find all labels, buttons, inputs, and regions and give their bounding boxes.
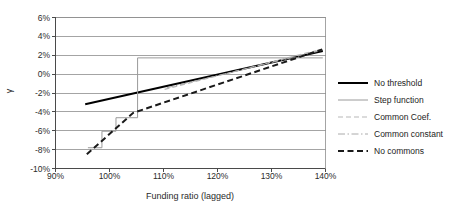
legend-swatch-icon <box>338 94 368 106</box>
x-axis-title: Funding ratio (lagged) <box>55 191 325 201</box>
y-tick-label: 2% <box>14 51 50 60</box>
legend-swatch-icon <box>338 77 368 89</box>
y-axis-title: γ <box>4 76 14 106</box>
y-tick-label: -6% <box>14 127 50 136</box>
chart-figure: 6%4%2%0%-2%-4%-6%-8%-10% 90%100%110%120%… <box>0 0 456 221</box>
legend-label: Step function <box>374 95 424 105</box>
y-axis-tick-labels: 6%4%2%0%-2%-4%-6%-8%-10% <box>14 0 50 221</box>
y-tick-label: 6% <box>14 13 50 22</box>
legend-item: Step function <box>338 91 456 108</box>
legend-label: Common Coef. <box>374 112 431 122</box>
x-axis-tick-labels: 90%100%110%120%130%140% <box>0 172 456 186</box>
legend-label: No commons <box>374 146 424 156</box>
x-tick-label: 130% <box>261 172 283 181</box>
legend-label: Common constant <box>374 129 443 139</box>
x-tick-label: 120% <box>207 172 229 181</box>
legend-item: Common Coef. <box>338 108 456 125</box>
legend-swatch-icon <box>338 111 368 123</box>
y-tick-label: -2% <box>14 89 50 98</box>
y-tick-label: 0% <box>14 70 50 79</box>
chart-legend: No thresholdStep functionCommon Coef.Com… <box>338 74 456 159</box>
legend-swatch-icon <box>338 145 368 157</box>
legend-label: No threshold <box>374 78 422 88</box>
legend-item: No commons <box>338 142 456 159</box>
x-tick-label: 140% <box>315 172 337 181</box>
x-tick-label: 100% <box>99 172 121 181</box>
series-line-4 <box>87 49 322 154</box>
legend-item: No threshold <box>338 74 456 91</box>
legend-item: Common constant <box>338 125 456 142</box>
x-tick-label: 90% <box>47 172 64 181</box>
x-tick-label: 110% <box>153 172 174 181</box>
legend-swatch-icon <box>338 128 368 140</box>
series-line-1 <box>88 58 323 148</box>
y-tick-label: -8% <box>14 145 50 154</box>
y-tick-label: 4% <box>14 32 50 41</box>
y-tick-label: -4% <box>14 108 50 117</box>
